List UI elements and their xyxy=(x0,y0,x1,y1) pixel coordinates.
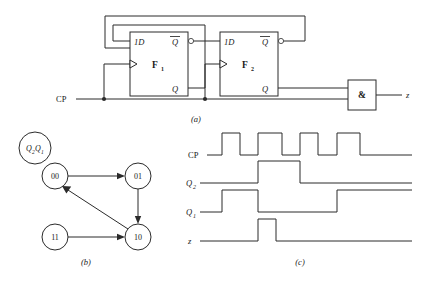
waveform-trace-q1 xyxy=(200,190,412,212)
flipflop-f2-qbar-pin-label: Q xyxy=(262,37,268,47)
waveform-label-q1: Q xyxy=(186,207,192,217)
state-transition-01-to-10 xyxy=(135,189,141,224)
panel-c-timing-diagram: CP Q 2 Q 1 z (c) xyxy=(186,133,412,267)
panel-b-state-diagram: Q 2 Q 1 00 01 11 10 xyxy=(19,132,151,267)
waveform-trace-q2 xyxy=(200,161,412,183)
panel-a-caption: (a) xyxy=(191,114,201,124)
flipflop-f1-qbar-bubble-icon xyxy=(188,38,193,43)
state-transition-00-to-01 xyxy=(68,173,125,179)
flipflop-f2-q-pin-label: Q xyxy=(262,84,268,94)
state-legend-sub-1: 1 xyxy=(41,149,44,155)
state-node-00-label: 00 xyxy=(51,172,59,181)
wire-cp-to-f2-clock xyxy=(205,64,220,99)
state-transition-10-to-00 xyxy=(62,186,128,229)
panel-a-logic-circuit: 1D Q Q F 1 1D Q Q F 2 CP xyxy=(56,16,410,124)
state-transition-11-to-10 xyxy=(68,234,125,240)
z-output-label: z xyxy=(405,90,410,100)
flipflop-f1-qbar-pin-label: Q xyxy=(172,37,178,47)
junction-dot-cp-f2 xyxy=(203,97,207,101)
flipflop-f1-name-subscript: 1 xyxy=(161,66,164,72)
waveform-label-q2-subscript: 2 xyxy=(193,184,196,190)
and-gate-symbol-label: & xyxy=(358,90,366,100)
state-node-11-label: 11 xyxy=(51,233,59,242)
figure-svg: 1D Q Q F 1 1D Q Q F 2 CP xyxy=(0,0,422,281)
state-node-10-label: 10 xyxy=(134,233,142,242)
flipflop-f2-name-subscript: 2 xyxy=(251,66,254,72)
flipflop-f1-q-pin-label: Q xyxy=(172,84,178,94)
figure-container: 1D Q Q F 1 1D Q Q F 2 CP xyxy=(0,0,422,281)
waveform-trace-cp xyxy=(207,133,412,155)
waveform-label-cp: CP xyxy=(188,150,199,160)
wire-cp-to-f1-clock xyxy=(104,64,130,99)
waveform-label-q2: Q xyxy=(186,178,192,188)
flipflop-f2-name-label: F xyxy=(242,60,248,70)
flipflop-f1-data-pin-label: 1D xyxy=(134,37,145,47)
waveform-label-z: z xyxy=(187,236,192,246)
flipflop-f2-qbar-bubble-icon xyxy=(278,38,283,43)
flipflop-f1-name-label: F xyxy=(152,60,158,70)
flipflop-f2-data-pin-label: 1D xyxy=(224,37,235,47)
junction-dot-cp-f1 xyxy=(102,97,106,101)
waveform-label-q1-subscript: 1 xyxy=(193,213,196,219)
panel-c-caption: (c) xyxy=(295,257,305,267)
waveform-trace-z xyxy=(200,219,412,241)
cp-input-label: CP xyxy=(56,94,67,104)
panel-b-caption: (b) xyxy=(81,257,91,267)
state-node-01-label: 01 xyxy=(134,172,142,181)
